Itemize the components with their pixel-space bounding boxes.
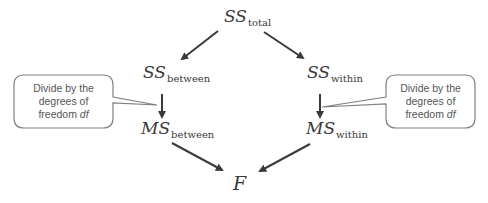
node-ms-within: MSwithin [306,120,368,137]
callout-left-text: Divide by the degrees of freedom df [14,82,113,121]
node-f-main: F [233,172,246,194]
arrow-sstotal-to-ssbetween [182,31,218,59]
callout-left-line3: freedom df [14,108,113,121]
arrow-sstotal-to-sswithin [264,32,303,58]
node-ss-within-main: SS [307,62,330,82]
node-ms-within-sub: within [336,129,368,140]
arrow-msbetween-to-f [172,143,222,170]
callout-left-line3-prefix: freedom [38,108,79,120]
callout-right-line2: degrees of [386,95,475,108]
node-ss-total-sub: total [248,17,271,28]
callout-left-line2: degrees of [14,95,113,108]
node-ss-between-sub: between [167,73,210,84]
callout-left-df: df [80,108,89,120]
node-ss-between-main: SS [143,62,166,82]
node-f: F [233,174,246,193]
callout-right-text: Divide by the degrees of freedom df [386,82,475,121]
node-ms-between-main: MS [141,118,170,138]
node-ms-within-main: MS [306,118,335,138]
node-ss-within: SSwithin [307,64,363,81]
callout-left-line1: Divide by the [14,82,113,95]
callout-right-line1: Divide by the [386,82,475,95]
arrow-mswithin-to-f [260,144,310,171]
callout-right-df: df [447,108,456,120]
node-ms-between-sub: between [171,129,214,140]
node-ss-total: SStotal [224,8,271,25]
node-ms-between: MSbetween [141,120,214,137]
callout-right-line3: freedom df [386,108,475,121]
callout-right-line3-prefix: freedom [405,108,446,120]
node-ss-between: SSbetween [143,64,210,81]
node-ss-within-sub: within [331,73,363,84]
node-ss-total-main: SS [224,6,247,26]
